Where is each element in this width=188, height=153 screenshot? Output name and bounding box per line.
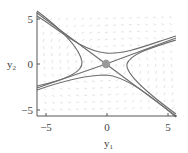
field-arrow <box>137 38 140 39</box>
field-arrow <box>99 60 101 63</box>
field-arrow <box>44 74 46 77</box>
field-arrow <box>145 31 148 32</box>
field-arrow <box>154 37 156 39</box>
field-arrow <box>140 107 142 109</box>
field-arrow <box>145 24 148 25</box>
field-arrow <box>140 78 141 81</box>
field-arrow <box>124 101 127 103</box>
field-arrow <box>66 32 68 34</box>
field-arrow <box>68 88 71 90</box>
field-arrow <box>148 100 150 102</box>
field-arrow <box>116 94 119 95</box>
field-arrow <box>156 92 157 95</box>
field-arrow <box>132 107 135 109</box>
field-arrow <box>50 18 52 20</box>
field-arrow <box>59 39 60 42</box>
phase-portrait-chart: −5 0 5 5 0 −5 y1 y2 <box>0 0 188 153</box>
field-arrow <box>44 60 45 63</box>
field-arrow <box>67 46 68 49</box>
field-arrow <box>148 78 149 81</box>
field-arrow <box>108 108 111 109</box>
x-axis-label: y1 <box>104 137 114 151</box>
field-arrow <box>76 95 79 96</box>
field-arrow <box>44 109 47 110</box>
field-arrow <box>82 32 84 34</box>
field-arrow <box>124 93 127 95</box>
field-arrow <box>68 102 71 103</box>
field-arrow <box>58 25 60 27</box>
field-arrow <box>162 30 165 32</box>
field-arrow <box>76 88 79 89</box>
field-arrow <box>82 25 85 27</box>
field-arrow <box>82 39 84 41</box>
field-arrow <box>52 67 53 70</box>
field-arrow <box>60 102 63 103</box>
field-arrow <box>140 64 141 67</box>
field-arrow <box>116 64 117 67</box>
field-arrow <box>60 88 63 90</box>
field-arrow <box>108 73 111 74</box>
trajectory-top <box>37 16 176 53</box>
field-arrow <box>164 99 166 102</box>
field-arrow <box>172 92 173 95</box>
field-arrow <box>171 57 172 60</box>
field-arrow <box>43 32 44 35</box>
field-arrow <box>51 46 52 49</box>
field-arrow <box>132 71 133 74</box>
field-arrow <box>97 32 100 33</box>
field-arrow <box>153 31 156 33</box>
saddle-equilibrium-point <box>102 60 110 68</box>
field-arrow <box>66 25 68 27</box>
field-arrow <box>89 18 92 19</box>
field-arrow <box>84 74 86 76</box>
field-arrow <box>139 57 140 60</box>
field-arrow <box>153 17 156 18</box>
field-arrow <box>67 39 69 42</box>
field-arrow <box>129 38 132 39</box>
field-arrow <box>76 67 77 70</box>
field-arrow <box>74 32 76 34</box>
field-arrow <box>124 86 126 88</box>
field-arrow <box>172 106 174 109</box>
field-arrow <box>164 92 165 95</box>
field-arrow <box>145 37 148 39</box>
field-arrow <box>52 74 54 77</box>
field-arrow <box>161 17 164 18</box>
field-arrow <box>51 39 52 42</box>
field-arrow <box>108 94 111 95</box>
field-arrow <box>83 53 84 56</box>
field-arrow <box>145 17 148 18</box>
field-arrow <box>68 81 70 83</box>
field-arrow <box>172 99 173 102</box>
field-arrow <box>97 18 100 19</box>
field-arrow <box>52 109 55 110</box>
field-arrow <box>137 24 140 25</box>
field-arrow <box>90 46 92 48</box>
field-arrow <box>105 46 108 47</box>
field-arrow <box>60 95 63 96</box>
field-arrow <box>58 32 60 35</box>
field-arrow <box>148 85 149 88</box>
field-arrow <box>44 81 46 83</box>
field-arrow <box>43 25 45 28</box>
field-arrow <box>154 51 156 53</box>
field-arrow <box>100 109 103 110</box>
field-arrow <box>132 86 134 88</box>
field-arrow <box>52 88 54 90</box>
field-arrow <box>137 17 140 18</box>
field-arrow <box>129 31 132 32</box>
field-arrow <box>170 30 172 32</box>
field-arrow <box>147 57 148 60</box>
y-axis-label: y2 <box>7 58 17 72</box>
field-arrow <box>43 39 44 42</box>
field-arrow <box>108 80 111 81</box>
field-arrow <box>161 24 164 25</box>
field-arrow <box>140 100 142 102</box>
y-tick-label: 0 <box>28 58 34 70</box>
field-arrow <box>171 64 172 67</box>
field-arrow <box>68 67 69 70</box>
field-arrow <box>114 58 116 60</box>
field-arrow <box>121 39 124 40</box>
field-arrow <box>138 44 141 46</box>
field-arrow <box>44 88 46 90</box>
